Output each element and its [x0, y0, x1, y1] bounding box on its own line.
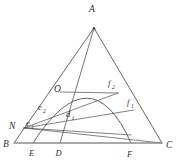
- base-point-label-E: E: [28, 148, 35, 158]
- vertex-dot-A: [93, 27, 96, 30]
- geometry-figure: A B C E D F N O e 1 e 2 d 1 f 1 f 2: [0, 0, 178, 161]
- cevian-AD: [60, 28, 94, 143]
- segment-label-f2-sub: 2: [112, 84, 115, 90]
- base-point-label-F: F: [126, 149, 133, 159]
- base-point-label-D: D: [55, 148, 63, 158]
- point-label-O: O: [54, 84, 61, 94]
- segment-label-e1-sub: 1: [31, 124, 34, 130]
- figure-canvas: A B C E D F N O e 1 e 2 d 1 f 1 f 2: [0, 0, 178, 161]
- segment-label-e2-sub: 2: [43, 108, 46, 114]
- segment-label-f2: f 2: [108, 78, 115, 90]
- ray-N-to-C: [24, 128, 162, 143]
- arc-EF: [33, 98, 131, 143]
- vertex-label-C: C: [166, 140, 173, 150]
- vertex-label-A: A: [88, 4, 95, 14]
- chord-O-to-f2: [61, 92, 119, 93]
- segment-label-d1-sub: 1: [72, 115, 75, 121]
- triangle-side-AC: [94, 28, 162, 143]
- segment-label-e2: e 2: [38, 102, 46, 114]
- segment-label-e2-base: e: [38, 102, 42, 112]
- vertex-label-B: B: [3, 139, 9, 149]
- segment-label-f1-sub: 1: [131, 103, 134, 109]
- segment-label-f1: f 1: [127, 97, 134, 109]
- point-label-N: N: [8, 121, 16, 131]
- segment-label-e1-base: e: [26, 118, 30, 128]
